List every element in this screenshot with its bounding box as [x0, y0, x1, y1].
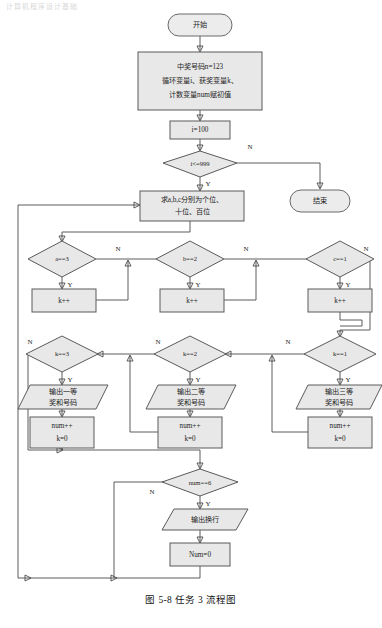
node-num-k-a[interactable]: num++ k=0: [30, 417, 94, 448]
node-start[interactable]: 开始: [168, 14, 232, 36]
flowchart-canvas: N Y N Y N Y N Y N Y N Y N Y N Y 开始 中奖号码n…: [0, 0, 382, 628]
init-label-line2: 循环变量i、获奖变量k、: [162, 76, 238, 85]
label-checka-yes: Y: [67, 281, 72, 289]
label-checkk2-yes: Y: [195, 376, 200, 384]
figure-caption: 图 5-8 任务 3 流程图: [0, 592, 382, 606]
i-init-label: i=100: [192, 126, 209, 134]
init-label-line3: 计数变量num赋初值: [169, 90, 231, 99]
reset-num-label: Num=0: [189, 551, 211, 559]
out-third-label-line2: 奖和号码: [325, 398, 353, 407]
node-check-b[interactable]: b==2: [156, 241, 224, 277]
num-k-c-label-line2: k=0: [334, 435, 346, 443]
label-checknum6-yes: Y: [205, 500, 210, 508]
split-digits-label-line2: 十位、百位: [175, 207, 210, 216]
node-split-digits[interactable]: 求a,b,c分别为个位、 十位、百位: [140, 191, 244, 221]
edge-checknum6-no-down: [114, 482, 166, 578]
edge-bus-to-checknum6: [62, 448, 200, 468]
check-a-label: a==3: [55, 255, 69, 262]
label-checkc-yes: Y: [345, 281, 350, 289]
label-loopcond-yes: Y: [205, 180, 210, 188]
node-out-newline[interactable]: 输出换行: [162, 509, 248, 530]
split-digits-label-line1: 求a,b,c分别为个位、: [161, 195, 224, 204]
label-checkc-no: N: [363, 245, 368, 253]
label-loopcond-no: N: [247, 143, 252, 151]
node-check-k3[interactable]: k==3: [26, 336, 98, 372]
node-num-k-c[interactable]: num++ k=0: [308, 417, 372, 448]
out-first-label-line1: 输出一等: [49, 387, 77, 396]
check-k1-label: k==1: [333, 350, 347, 357]
num-k-c-label-line1: num++: [330, 422, 351, 430]
label-checkb-yes: Y: [195, 281, 200, 289]
edge-split-to-checka: [62, 221, 190, 241]
edge-inckc-to-rail: [340, 312, 362, 326]
label-checknum6-no: N: [149, 488, 154, 496]
out-third-label-line1: 输出三等: [325, 387, 353, 396]
inc-k-a-label: k++: [58, 297, 70, 305]
node-inc-k-a[interactable]: k++: [32, 289, 96, 312]
num-k-a-label-line2: k=0: [56, 435, 68, 443]
label-checkk2-no: N: [155, 338, 160, 346]
label-checkk1-yes: Y: [345, 376, 350, 384]
out-first-label-line2: 奖和号码: [49, 398, 77, 407]
num-k-b-label-line1: num++: [180, 422, 201, 430]
node-end[interactable]: 结束: [290, 190, 350, 212]
edge-incka-merge: [96, 261, 128, 300]
start-label: 开始: [193, 20, 207, 29]
inc-k-c-label: k++: [334, 297, 346, 305]
node-num-k-b[interactable]: num++ k=0: [158, 417, 222, 448]
check-b-label: b==2: [183, 255, 197, 262]
node-check-a[interactable]: a==3: [28, 241, 96, 277]
node-inc-k-c[interactable]: k++: [308, 289, 372, 312]
node-check-num6[interactable]: num==6: [162, 469, 238, 496]
init-label-line1: 中奖号码n=123: [177, 62, 224, 71]
node-init[interactable]: 中奖号码n=123 循环变量i、获奖变量k、 计数变量num赋初值: [138, 52, 262, 110]
label-checkk1-no: N: [285, 338, 290, 346]
check-num6-label: num==6: [189, 479, 212, 486]
label-checkk3-yes: Y: [67, 376, 72, 384]
edge-loopcond-no-to-end: [237, 163, 320, 188]
node-inc-k-b[interactable]: k++: [160, 289, 224, 312]
node-reset-num[interactable]: Num=0: [170, 543, 230, 566]
node-out-third[interactable]: 输出三等 奖和号码: [296, 385, 382, 409]
node-loop-condition[interactable]: i<=999: [163, 151, 237, 177]
node-out-second[interactable]: 输出二等 奖和号码: [146, 385, 236, 409]
inc-k-b-label: k++: [186, 297, 198, 305]
node-i-init[interactable]: i=100: [170, 121, 230, 139]
loop-condition-label: i<=999: [190, 160, 210, 167]
check-k3-label: k==3: [55, 350, 70, 357]
edge-inckb-merge: [224, 261, 256, 300]
label-checkk3-no: N: [27, 338, 32, 346]
out-second-label-line1: 输出二等: [177, 387, 205, 396]
label-checkb-no: N: [243, 245, 248, 253]
check-k2-label: k==2: [183, 350, 197, 357]
num-k-b-label-line2: k=0: [184, 435, 196, 443]
out-newline-label: 输出换行: [191, 515, 219, 524]
node-check-k1[interactable]: k==1: [304, 336, 376, 372]
label-checka-no: N: [115, 245, 120, 253]
end-label: 结束: [313, 196, 327, 205]
out-second-label-line2: 奖和号码: [177, 398, 205, 407]
num-k-a-label-line1: num++: [52, 422, 73, 430]
check-c-label: c==1: [333, 255, 347, 262]
node-out-first[interactable]: 输出一等 奖和号码: [18, 385, 108, 409]
node-check-k2[interactable]: k==2: [154, 336, 226, 372]
